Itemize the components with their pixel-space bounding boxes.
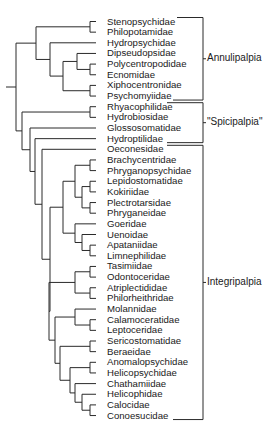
taxon-label: Leptoceridae bbox=[107, 324, 162, 335]
taxon-label: Ecnomidae bbox=[107, 69, 155, 80]
taxon-label: Beraeidae bbox=[107, 346, 151, 357]
taxon-label: Hydrobiosidae bbox=[107, 111, 168, 122]
taxon-label: Polycentropodidae bbox=[107, 58, 186, 69]
phylogenetic-tree: StenopsychidaePhilopotamidaeHydropsychid… bbox=[0, 0, 273, 441]
taxon-label: Glossosomatidae bbox=[107, 122, 181, 133]
taxon-label: Calocidae bbox=[107, 399, 150, 410]
taxon-label: Apataniidae bbox=[107, 239, 158, 250]
taxon-label: Tasimiidae bbox=[107, 260, 152, 271]
taxon-label: Sericostomatidae bbox=[107, 335, 181, 346]
taxon-label: Kokiriidae bbox=[107, 186, 149, 197]
group-label-0: Annulipalpia bbox=[207, 52, 262, 63]
taxon-label: Helicophidae bbox=[107, 388, 162, 399]
taxon-label: Dipseudopsidae bbox=[107, 47, 176, 58]
taxon-label: Limnephilidae bbox=[107, 250, 166, 261]
taxon-label: Anomalopsychidae bbox=[107, 356, 188, 367]
taxon-label: Conoesucidae bbox=[107, 410, 168, 421]
taxon-label: Calamoceratidae bbox=[107, 314, 180, 325]
taxon-label: Phryganeidae bbox=[107, 207, 166, 218]
group-label-2: Integripalpia bbox=[207, 276, 262, 287]
taxon-label: Uenoidae bbox=[107, 229, 148, 240]
caption-fragment bbox=[2, 432, 272, 441]
group-label-1: "Spicipalpia" bbox=[207, 116, 263, 127]
taxon-label: Hydroptilidae bbox=[107, 133, 163, 144]
taxon-label: Odontoceridae bbox=[107, 271, 170, 282]
taxon-label: Goeridae bbox=[107, 218, 146, 229]
taxon-label: Lepidostomatidae bbox=[107, 175, 183, 186]
taxon-label: Oeconesidae bbox=[107, 143, 164, 154]
taxon-label: Molannidae bbox=[107, 303, 157, 314]
taxon-label: Atriplectididae bbox=[107, 282, 167, 293]
taxon-label: Plectrotarsidae bbox=[107, 197, 171, 208]
taxon-label: Chathamiidae bbox=[107, 378, 166, 389]
taxon-label: Rhyacophilidae bbox=[107, 101, 173, 112]
taxon-label: Brachycentridae bbox=[107, 154, 176, 165]
taxon-label: Philorheithridae bbox=[107, 292, 174, 303]
taxon-label: Xiphocentronidae bbox=[107, 79, 182, 90]
taxon-label: Stenopsychidae bbox=[107, 16, 175, 27]
taxon-label: Philopotamidae bbox=[107, 26, 173, 37]
taxon-label: Helicopsychidae bbox=[107, 367, 177, 378]
taxon-label: Psychomyiidae bbox=[107, 90, 172, 101]
taxon-label: Phryganopsychidae bbox=[107, 165, 191, 176]
taxon-label: Hydropsychidae bbox=[107, 37, 176, 48]
